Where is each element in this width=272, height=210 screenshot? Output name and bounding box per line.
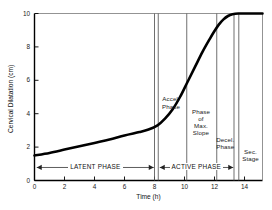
- sec-stage-line: Sec.: [234, 148, 268, 155]
- x-tick-label: 10: [177, 183, 193, 190]
- chart-canvas: [0, 0, 272, 210]
- y-axis-title: Cervical Dilatation (cm): [7, 65, 14, 133]
- x-tick-label: 0: [27, 183, 43, 190]
- axis-ticks: [35, 14, 245, 181]
- latent-phase-span-text: LATENT PHASE: [68, 163, 122, 170]
- decel-phase-line: Decel.: [208, 136, 242, 143]
- phase-of-max-slope-label: PhaseofMax.Slope: [184, 108, 218, 137]
- y-tick-label: 6: [12, 76, 30, 83]
- x-tick-label: 2: [57, 183, 73, 190]
- y-tick-label: 8: [12, 43, 30, 50]
- x-tick-label: 6: [117, 183, 133, 190]
- friedman-labor-curve-figure: 02468101214 0246810 Accel.PhasePhaseofMa…: [0, 0, 272, 210]
- active-phase-span-text: ACTIVE PHASE: [170, 163, 224, 170]
- y-tick-label: 4: [12, 110, 30, 117]
- y-tick-label: 10: [12, 10, 30, 17]
- phase-of-max-slope-line: of: [184, 115, 218, 122]
- x-tick-label: 4: [87, 183, 103, 190]
- dilatation-curve: [35, 13, 263, 155]
- accel-phase-label: Accel.Phase: [154, 95, 188, 109]
- y-tick-label: 0: [12, 177, 30, 184]
- sec-stage-label: Sec.Stage: [234, 148, 268, 162]
- x-tick-label: 8: [147, 183, 163, 190]
- axis-frame: [35, 14, 263, 181]
- accel-phase-line: Phase: [154, 103, 188, 110]
- accel-phase-line: Accel.: [154, 95, 188, 102]
- phase-of-max-slope-line: Max.: [184, 122, 218, 129]
- phase-of-max-slope-line: Phase: [184, 108, 218, 115]
- x-tick-label: 12: [207, 183, 223, 190]
- sec-stage-line: Stage: [234, 155, 268, 162]
- y-tick-label: 2: [12, 143, 30, 150]
- x-tick-label: 14: [237, 183, 253, 190]
- x-axis-title: Time (h): [35, 193, 263, 200]
